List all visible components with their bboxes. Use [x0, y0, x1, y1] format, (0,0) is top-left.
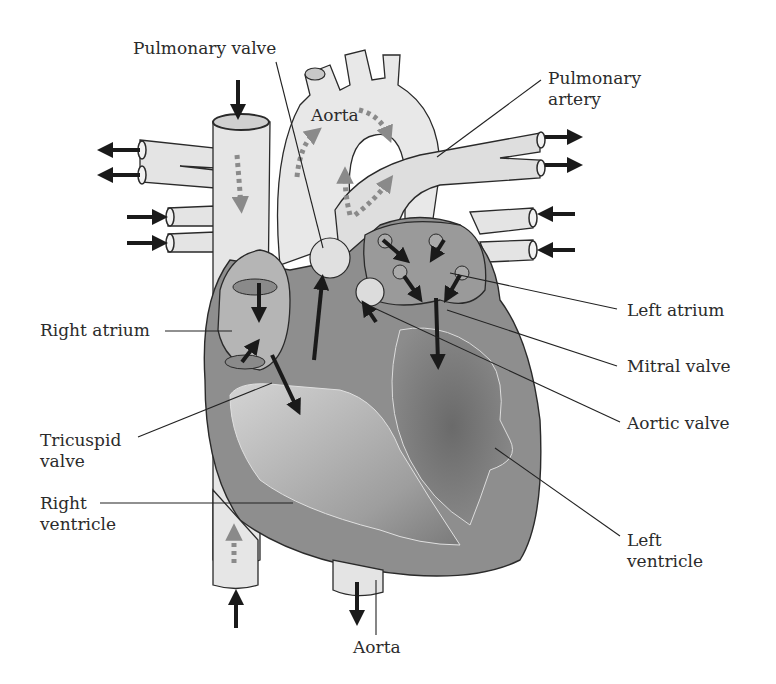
heart-diagram	[0, 0, 776, 684]
pulmonary-valve-shape	[310, 238, 350, 278]
label-right-atrium: Right atrium	[40, 320, 150, 341]
label-aortic-valve: Aortic valve	[627, 413, 730, 434]
pulmonary-veins-left	[140, 140, 215, 252]
aortic-valve-shape	[356, 278, 384, 306]
label-left-ventricle: Left ventricle	[627, 530, 703, 572]
label-aorta-bottom: Aorta	[353, 637, 401, 658]
label-right-ventricle: Right ventricle	[40, 493, 116, 535]
label-mitral-valve: Mitral valve	[627, 356, 731, 377]
label-left-atrium: Left atrium	[627, 300, 724, 321]
label-pulmonary-artery: Pulmonary artery	[548, 68, 641, 110]
label-aorta-top: Aorta	[311, 105, 359, 126]
label-pulmonary-valve: Pulmonary valve	[133, 38, 276, 59]
label-tricuspid-valve: Tricuspid valve	[40, 430, 121, 472]
